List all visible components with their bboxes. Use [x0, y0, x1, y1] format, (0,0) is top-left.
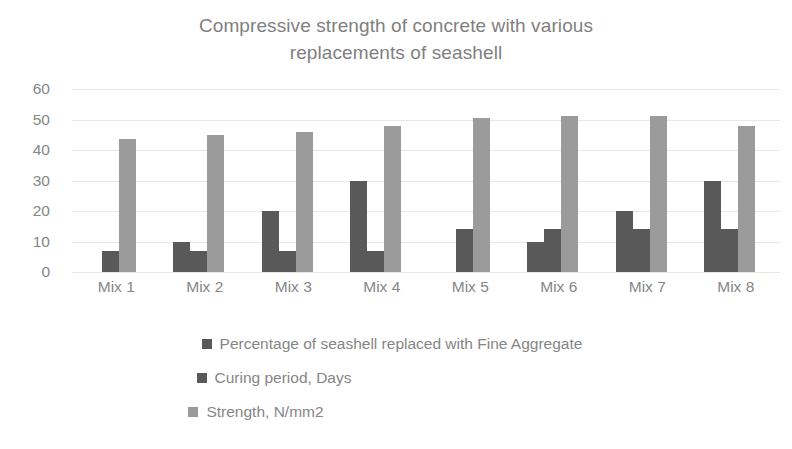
chart-title: Compressive strength of concrete with va… — [96, 12, 696, 66]
bar[interactable] — [102, 251, 119, 272]
bar-group — [603, 89, 692, 272]
legend-swatch-strength — [188, 407, 198, 417]
plot-area — [72, 89, 780, 272]
bar[interactable] — [544, 229, 561, 272]
y-axis-tick-label: 10 — [10, 233, 50, 251]
x-axis-tick-label: Mix 4 — [339, 278, 425, 296]
bar[interactable] — [738, 126, 755, 272]
legend-item-label: Curing period, Days — [215, 369, 352, 387]
bar[interactable] — [173, 242, 190, 273]
bar[interactable] — [456, 229, 473, 272]
x-axis: Mix 1Mix 2Mix 3Mix 4Mix 5Mix 6Mix 7Mix 8 — [72, 278, 780, 302]
bar-group — [338, 89, 427, 272]
legend-item[interactable]: Percentage of seashell replaced with Fin… — [0, 327, 792, 361]
legend-item-inner: Curing period, Days — [197, 369, 352, 387]
x-axis-tick-label: Mix 2 — [162, 278, 248, 296]
bar-group — [515, 89, 604, 272]
bar[interactable] — [650, 116, 667, 272]
bar-group — [249, 89, 338, 272]
legend-item[interactable]: Strength, N/mm2 — [0, 395, 792, 429]
chart-legend: Percentage of seashell replaced with Fin… — [0, 327, 792, 429]
y-axis-tick-label: 50 — [10, 111, 50, 129]
legend-item-label: Strength, N/mm2 — [206, 403, 323, 421]
bar[interactable] — [473, 118, 490, 272]
x-axis-tick-label: Mix 7 — [604, 278, 690, 296]
bar[interactable] — [721, 229, 738, 272]
bar[interactable] — [350, 181, 367, 273]
y-axis-tick-label: 60 — [10, 80, 50, 98]
legend-swatch-curing — [197, 373, 207, 383]
bar[interactable] — [616, 211, 633, 272]
bar[interactable] — [296, 132, 313, 272]
x-axis-tick-label: Mix 6 — [516, 278, 602, 296]
bar[interactable] — [190, 251, 207, 272]
bar[interactable] — [633, 229, 650, 272]
legend-swatch-percentage — [202, 339, 212, 349]
bar[interactable] — [527, 242, 544, 273]
bar-group — [692, 89, 781, 272]
x-axis-tick-label: Mix 3 — [250, 278, 336, 296]
bar[interactable] — [279, 251, 296, 272]
y-axis-tick-label: 20 — [10, 202, 50, 220]
legend-item[interactable]: Curing period, Days — [0, 361, 792, 395]
bar[interactable] — [119, 139, 136, 272]
legend-item-inner: Strength, N/mm2 — [188, 403, 323, 421]
bar-chart: Compressive strength of concrete with va… — [0, 0, 792, 449]
y-axis-tick-label: 30 — [10, 172, 50, 190]
bar[interactable] — [384, 126, 401, 272]
x-axis-tick-label: Mix 1 — [73, 278, 159, 296]
x-axis-tick-label: Mix 8 — [693, 278, 779, 296]
bar[interactable] — [704, 181, 721, 273]
bar-group — [426, 89, 515, 272]
bar[interactable] — [367, 251, 384, 272]
bar[interactable] — [262, 211, 279, 272]
bar[interactable] — [561, 116, 578, 272]
legend-item-inner: Percentage of seashell replaced with Fin… — [202, 335, 583, 353]
y-axis-tick-label: 0 — [10, 263, 50, 281]
legend-item-label: Percentage of seashell replaced with Fin… — [220, 335, 583, 353]
y-axis-tick-label: 40 — [10, 141, 50, 159]
bar-group — [161, 89, 250, 272]
x-axis-tick-label: Mix 5 — [427, 278, 513, 296]
bar-group — [72, 89, 161, 272]
gridline — [72, 272, 780, 273]
bar[interactable] — [207, 135, 224, 272]
